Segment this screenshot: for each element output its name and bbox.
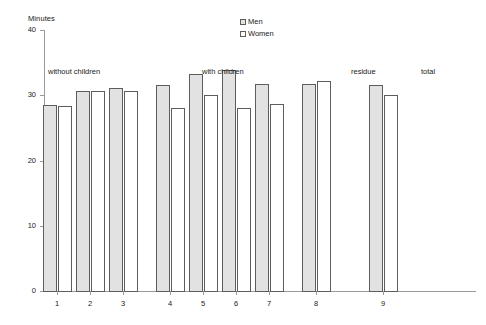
bar-7-men	[255, 84, 269, 292]
x-tick-label: 2	[80, 299, 100, 308]
x-tick-label: 6	[226, 299, 246, 308]
bar-6-women	[237, 108, 251, 292]
bar-9-men	[369, 85, 383, 292]
y-tick-label: 40	[20, 25, 36, 34]
y-tick-mark	[40, 30, 44, 31]
legend-label-women: Women	[248, 30, 274, 38]
bar-6-men	[222, 70, 236, 292]
group-annotation: total	[421, 67, 435, 76]
y-tick-label: 0	[20, 286, 36, 295]
bar-chart: Minutes Men Women 010203040123456789with…	[0, 0, 486, 325]
y-tick-label: 20	[20, 156, 36, 165]
legend-item-women: Women	[240, 28, 274, 39]
x-tick-label: 8	[306, 299, 326, 308]
bar-7-women	[270, 104, 284, 292]
y-axis-title: Minutes	[28, 14, 55, 23]
chart-legend: Men Women	[240, 16, 274, 40]
women-swatch-icon	[240, 31, 246, 37]
bar-3-women	[124, 91, 138, 292]
bar-2-men	[76, 91, 90, 292]
x-tick-label: 7	[259, 299, 279, 308]
bar-5-men	[189, 74, 203, 292]
group-annotation: without children	[48, 67, 100, 76]
x-tick-label: 5	[193, 299, 213, 308]
bar-4-women	[171, 108, 185, 292]
bar-8-men	[302, 84, 316, 292]
bar-9-women	[384, 95, 398, 292]
bar-8-women	[317, 81, 331, 292]
bar-1-men	[43, 105, 57, 292]
x-tick-label: 4	[160, 299, 180, 308]
y-tick-label: 10	[20, 221, 36, 230]
legend-label-men: Men	[248, 18, 263, 26]
group-annotation: with children	[202, 67, 244, 76]
x-tick-label: 1	[47, 299, 67, 308]
y-tick-mark	[40, 95, 44, 96]
bar-5-women	[204, 95, 218, 292]
x-tick-label: 3	[113, 299, 133, 308]
y-tick-label: 30	[20, 90, 36, 99]
bar-4-men	[156, 85, 170, 292]
bar-2-women	[91, 91, 105, 292]
group-annotation: residue	[351, 67, 376, 76]
bar-3-men	[109, 88, 123, 292]
men-swatch-icon	[240, 19, 246, 25]
x-tick-label: 9	[373, 299, 393, 308]
bar-1-women	[58, 106, 72, 292]
legend-item-men: Men	[240, 16, 274, 27]
